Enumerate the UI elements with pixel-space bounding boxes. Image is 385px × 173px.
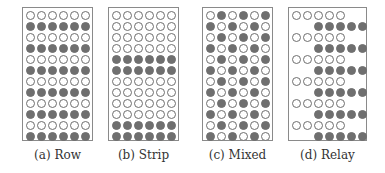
panel-a — [22, 7, 93, 141]
empty-circle-icon — [134, 110, 143, 119]
filled-circle-icon — [81, 44, 90, 53]
empty-circle-icon — [123, 33, 132, 42]
empty-circle-icon — [59, 99, 68, 108]
filled-circle-icon — [250, 88, 259, 97]
filled-circle-icon — [145, 132, 154, 141]
filled-circle-icon — [156, 66, 165, 75]
filled-circle-icon — [347, 66, 356, 75]
empty-circle-icon — [70, 55, 79, 64]
filled-circle-icon — [217, 99, 226, 108]
filled-circle-icon — [358, 110, 367, 119]
empty-circle-icon — [26, 121, 35, 130]
filled-circle-icon — [48, 110, 57, 119]
filled-circle-icon — [239, 99, 248, 108]
filled-circle-icon — [347, 88, 356, 97]
filled-circle-icon — [228, 44, 237, 53]
empty-circle-icon — [156, 99, 165, 108]
filled-circle-icon — [347, 22, 356, 31]
filled-circle-icon — [228, 110, 237, 119]
empty-circle-icon — [26, 55, 35, 64]
empty-circle-icon — [336, 33, 345, 42]
filled-circle-icon — [239, 11, 248, 20]
empty-circle-icon — [145, 22, 154, 31]
filled-circle-icon — [358, 22, 367, 31]
empty-circle-icon — [145, 33, 154, 42]
filled-circle-icon — [167, 55, 176, 64]
empty-circle-icon — [228, 33, 237, 42]
empty-circle-icon — [26, 33, 35, 42]
empty-circle-icon — [156, 22, 165, 31]
empty-circle-icon — [206, 33, 215, 42]
empty-circle-icon — [206, 11, 215, 20]
filled-circle-icon — [239, 33, 248, 42]
empty-circle-icon — [145, 99, 154, 108]
filled-circle-icon — [325, 88, 334, 97]
empty-circle-icon — [26, 77, 35, 86]
empty-circle-icon — [336, 55, 345, 64]
empty-circle-icon — [325, 121, 334, 130]
empty-circle-icon — [167, 33, 176, 42]
empty-circle-icon — [156, 88, 165, 97]
panel-b — [108, 7, 179, 141]
empty-circle-icon — [112, 44, 121, 53]
empty-circle-icon — [239, 66, 248, 75]
caption-b: (b) Strip — [108, 148, 179, 162]
empty-circle-icon — [156, 11, 165, 20]
filled-circle-icon — [70, 66, 79, 75]
filled-circle-icon — [37, 88, 46, 97]
empty-circle-icon — [59, 77, 68, 86]
empty-circle-icon — [112, 33, 121, 42]
filled-circle-icon — [37, 44, 46, 53]
filled-circle-icon — [206, 132, 215, 141]
empty-circle-icon — [292, 33, 301, 42]
empty-circle-icon — [70, 11, 79, 20]
empty-circle-icon — [336, 77, 345, 86]
filled-circle-icon — [314, 44, 323, 53]
filled-circle-icon — [206, 110, 215, 119]
filled-circle-icon — [336, 66, 345, 75]
filled-circle-icon — [314, 66, 323, 75]
empty-circle-icon — [206, 55, 215, 64]
filled-circle-icon — [59, 132, 68, 141]
empty-circle-icon — [292, 77, 301, 86]
empty-circle-icon — [228, 77, 237, 86]
empty-circle-icon — [206, 121, 215, 130]
empty-circle-icon — [48, 55, 57, 64]
filled-circle-icon — [206, 44, 215, 53]
empty-circle-icon — [59, 121, 68, 130]
filled-circle-icon — [325, 22, 334, 31]
empty-circle-icon — [134, 44, 143, 53]
filled-circle-icon — [261, 55, 270, 64]
filled-circle-icon — [123, 121, 132, 130]
empty-circle-icon — [314, 33, 323, 42]
filled-circle-icon — [217, 11, 226, 20]
empty-circle-icon — [228, 55, 237, 64]
filled-circle-icon — [314, 88, 323, 97]
empty-circle-icon — [59, 55, 68, 64]
empty-circle-icon — [217, 44, 226, 53]
filled-circle-icon — [59, 66, 68, 75]
filled-circle-icon — [37, 132, 46, 141]
empty-circle-icon — [123, 99, 132, 108]
empty-circle-icon — [123, 11, 132, 20]
empty-circle-icon — [70, 77, 79, 86]
empty-circle-icon — [239, 44, 248, 53]
filled-circle-icon — [70, 22, 79, 31]
empty-circle-icon — [239, 110, 248, 119]
empty-circle-icon — [217, 22, 226, 31]
empty-circle-icon — [292, 99, 301, 108]
empty-circle-icon — [123, 44, 132, 53]
filled-circle-icon — [81, 110, 90, 119]
caption-a: (a) Row — [22, 148, 93, 162]
empty-circle-icon — [134, 33, 143, 42]
empty-circle-icon — [239, 88, 248, 97]
filled-circle-icon — [228, 22, 237, 31]
empty-circle-icon — [167, 22, 176, 31]
empty-circle-icon — [303, 33, 312, 42]
empty-circle-icon — [81, 99, 90, 108]
empty-circle-icon — [145, 44, 154, 53]
empty-circle-icon — [303, 77, 312, 86]
filled-circle-icon — [217, 77, 226, 86]
filled-circle-icon — [112, 66, 121, 75]
empty-circle-icon — [167, 110, 176, 119]
